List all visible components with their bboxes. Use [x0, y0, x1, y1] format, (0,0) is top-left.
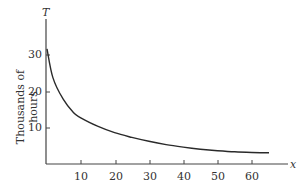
x-tick-label-60: 60	[242, 171, 262, 182]
x-axis-symbol: x	[290, 158, 296, 171]
chart-canvas	[0, 0, 302, 192]
data-curve	[47, 49, 269, 153]
y-tick-label-10: 10	[22, 122, 42, 133]
x-tick-label-40: 40	[174, 171, 194, 182]
y-tick-label-20: 20	[22, 86, 42, 97]
x-tick-label-50: 50	[208, 171, 228, 182]
x-tick-label-10: 10	[71, 171, 91, 182]
y-tick-label-30: 30	[22, 49, 42, 60]
y-axis-title: Thousands of hours	[14, 62, 40, 152]
x-tick-label-20: 20	[106, 171, 126, 182]
y-axis-symbol: T	[42, 6, 49, 19]
x-tick-label-30: 30	[140, 171, 160, 182]
